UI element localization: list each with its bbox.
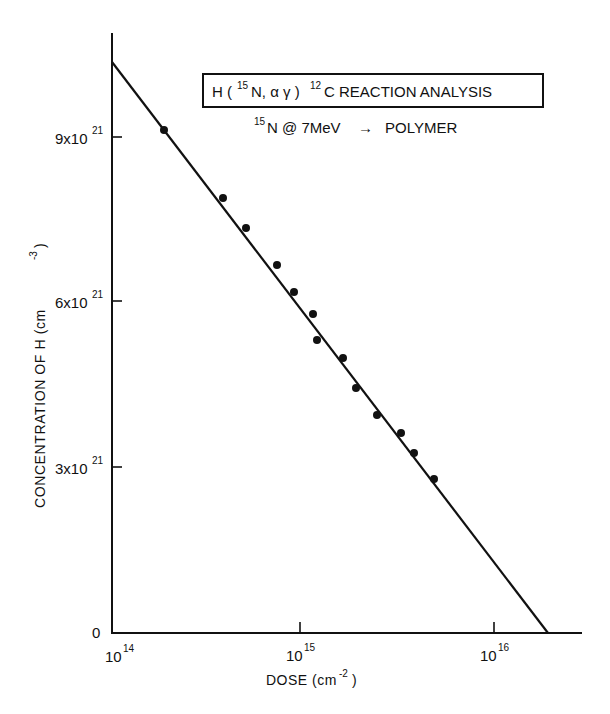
svg-text:): ) xyxy=(32,243,48,248)
svg-text:): ) xyxy=(352,672,357,688)
svg-text:15: 15 xyxy=(237,80,249,91)
svg-text:21: 21 xyxy=(92,455,104,466)
data-point xyxy=(273,261,281,269)
fit-line xyxy=(112,62,548,633)
svg-text:9x10: 9x10 xyxy=(55,130,88,147)
y-axis-label: CONCENTRATION OF H (cm -3 ) xyxy=(28,243,48,508)
data-point xyxy=(410,449,418,457)
svg-text:12: 12 xyxy=(310,80,322,91)
svg-text:N @ 7MeV: N @ 7MeV xyxy=(267,119,341,136)
y-tick-label-0: 0 xyxy=(92,624,100,641)
svg-text:DOSE (cm: DOSE (cm xyxy=(266,672,337,688)
data-point xyxy=(430,475,438,483)
svg-text:21: 21 xyxy=(92,125,104,136)
data-point xyxy=(373,411,381,419)
svg-text:14: 14 xyxy=(123,643,135,654)
svg-text:H (: H ( xyxy=(212,83,232,100)
x-tick-label-1e15: 10 15 xyxy=(286,642,316,664)
data-point xyxy=(309,310,317,318)
x-tick-label-1e14: 10 14 xyxy=(105,643,135,665)
x-tick-label-1e16: 10 16 xyxy=(480,642,510,664)
data-point xyxy=(397,429,405,437)
x-axis-label: DOSE (cm -2 ) xyxy=(266,668,357,688)
svg-text:15: 15 xyxy=(304,642,316,653)
data-point xyxy=(313,336,321,344)
chart-subtitle: 15 N @ 7MeV → POLYMER xyxy=(254,116,457,136)
chart-canvas: 0 3x10 21 6x10 21 9x10 21 10 14 10 15 10… xyxy=(0,0,610,714)
svg-text:CONCENTRATION OF H (cm: CONCENTRATION OF H (cm xyxy=(32,309,48,508)
data-point xyxy=(160,126,168,134)
svg-text:C REACTION ANALYSIS: C REACTION ANALYSIS xyxy=(324,83,492,100)
chart-title: H ( 15 N, α γ ) 12 C REACTION ANALYSIS xyxy=(212,80,492,100)
data-point xyxy=(219,194,227,202)
y-tick-label-9e21: 9x10 21 xyxy=(55,125,104,147)
svg-text:POLYMER: POLYMER xyxy=(385,119,457,136)
svg-text:N, α γ ): N, α γ ) xyxy=(251,83,300,100)
svg-text:10: 10 xyxy=(480,647,497,664)
y-tick-label-6e21: 6x10 21 xyxy=(55,289,104,311)
svg-text:-3: -3 xyxy=(28,251,39,260)
data-point xyxy=(352,384,360,392)
svg-text:16: 16 xyxy=(498,642,510,653)
svg-text:10: 10 xyxy=(105,648,122,665)
data-point xyxy=(290,288,298,296)
y-tick-label-3e21: 3x10 21 xyxy=(55,455,104,477)
svg-text:15: 15 xyxy=(254,116,266,127)
svg-text:→: → xyxy=(358,119,373,136)
y-ticks xyxy=(112,137,122,467)
svg-text:6x10: 6x10 xyxy=(55,294,88,311)
svg-text:10: 10 xyxy=(286,647,303,664)
svg-text:21: 21 xyxy=(92,289,104,300)
svg-text:-2: -2 xyxy=(339,668,348,679)
data-point xyxy=(242,224,250,232)
data-point xyxy=(339,354,347,362)
svg-text:3x10: 3x10 xyxy=(55,460,88,477)
x-ticks xyxy=(300,622,494,633)
